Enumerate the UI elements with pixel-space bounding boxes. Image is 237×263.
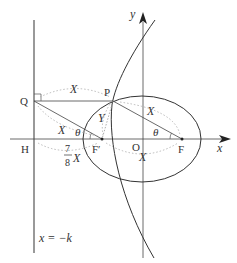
- label-F: F: [178, 143, 184, 155]
- label-H: H: [21, 143, 29, 155]
- label-QP: X: [69, 82, 78, 96]
- point-F: [181, 138, 184, 141]
- label-HF-prime-var: X: [72, 151, 81, 165]
- label-fraction-numerator: 7: [65, 143, 70, 154]
- angle-arc-F-prime: [90, 133, 92, 139]
- label-fraction-denominator: 8: [65, 157, 70, 168]
- label-F-prime: F′: [92, 143, 101, 155]
- label-directrix: x = −k: [38, 231, 73, 245]
- right-angle-mark: [34, 94, 41, 101]
- label-Q: Q: [20, 95, 28, 107]
- label-F-prime-F: X: [138, 150, 147, 164]
- segment-QF-prime: [34, 101, 102, 139]
- label-P: P: [104, 86, 110, 98]
- angle-arc-F: [170, 133, 172, 139]
- point-F-prime: [101, 138, 104, 141]
- label-x-axis: x: [216, 141, 223, 155]
- label-PF: X: [146, 104, 155, 118]
- conic-diagram: y x O Q P H F F′ X X X Y X 7 8 X θ θ x =…: [0, 0, 237, 263]
- label-y-axis: y: [129, 7, 136, 21]
- label-theta-F-prime: θ: [75, 126, 81, 138]
- label-PF-prime: Y: [98, 111, 106, 125]
- label-QF-prime: X: [57, 123, 66, 137]
- label-theta-F: θ: [153, 126, 159, 138]
